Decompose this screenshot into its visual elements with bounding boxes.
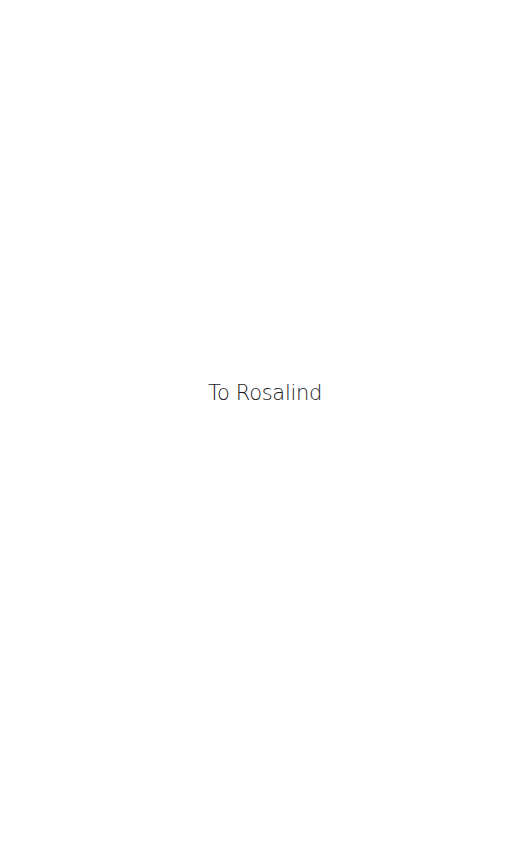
dedication-page: To Rosalind — [0, 0, 530, 863]
dedication-text: To Rosalind — [0, 379, 530, 407]
